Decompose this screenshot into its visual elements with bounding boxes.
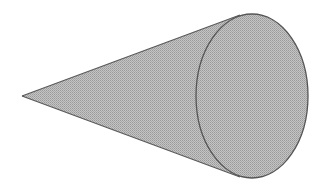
cone-base-ellipse (196, 14, 308, 178)
diagram-canvas (0, 0, 326, 188)
cone-diagram (0, 0, 326, 188)
